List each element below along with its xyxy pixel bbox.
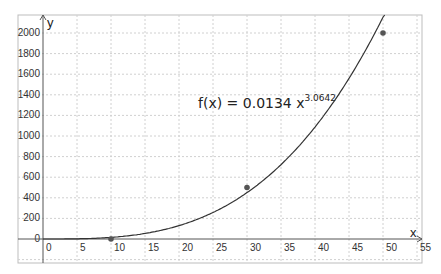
data-point [244,185,250,191]
data-point [380,30,386,36]
x-tick-label: 10 [114,242,126,253]
y-tick-label: 1600 [18,68,41,79]
power-fit-chart: 0510152025303540455055020040060080010001… [0,0,441,274]
x-tick-label: 50 [386,242,398,253]
x-tick-label: 5 [80,242,86,253]
data-point [108,236,114,242]
x-tick-label: 45 [352,242,364,253]
y-tick-label: 2000 [18,27,41,38]
y-tick-label: 200 [23,212,40,223]
plot-frame [18,15,422,263]
y-tick-label: 1200 [18,109,41,120]
x-tick-label: 35 [284,242,296,253]
y-tick-label: 1000 [18,130,41,141]
x-tick-label: 25 [216,242,228,253]
y-tick-label: 800 [23,151,40,162]
x-tick-label: 55 [420,242,432,253]
x-tick-label: 15 [148,242,160,253]
x-tick-label: 40 [318,242,330,253]
y-tick-label: 1800 [18,48,41,59]
x-tick-label: 30 [250,242,262,253]
x-tick-label: 20 [182,242,194,253]
x-tick-label: 0 [46,242,52,253]
y-axis-label: y [47,15,54,30]
y-tick-label: 400 [23,192,40,203]
y-tick-label: 1400 [18,89,41,100]
x-axis-label: x [410,225,417,240]
y-tick-label: 600 [23,171,40,182]
